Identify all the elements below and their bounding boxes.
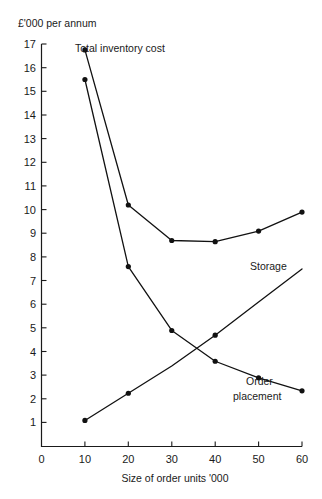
y-tick-label: 11 (25, 180, 36, 192)
y-tick-label: 6 (30, 298, 36, 310)
data-point (213, 239, 218, 244)
data-point (213, 333, 218, 338)
data-point (82, 418, 87, 423)
series-line (85, 50, 302, 242)
y-tick-label: 9 (30, 227, 36, 239)
data-point (213, 359, 218, 364)
data-series-layer (82, 47, 304, 423)
x-tick-label: 50 (252, 453, 264, 465)
data-point (126, 202, 131, 207)
y-tick-label: 16 (24, 62, 36, 74)
y-axis-ticks (42, 44, 47, 422)
x-axis-ticks (85, 442, 302, 447)
chart-plot-area: £'000 per annum 17 16 15 (0, 0, 322, 499)
y-tick-label: 17 (24, 38, 36, 50)
data-point (169, 238, 174, 243)
y-tick-label: 3 (30, 369, 36, 381)
y-tick-label: 4 (30, 346, 36, 358)
y-tick-label: 8 (30, 251, 36, 263)
storage-label: Storage (250, 260, 287, 272)
x-tick-label: 0 (38, 453, 44, 465)
y-tick-label: 1 (30, 416, 36, 428)
y-tick-label: 15 (24, 85, 36, 97)
y-tick-label: 2 (30, 393, 36, 405)
x-tick-label: 30 (166, 453, 178, 465)
order-placement-label-line1: Order (246, 375, 273, 387)
y-axis-tick-labels: 17 16 15 14 13 12 11 10 9 8 7 6 5 4 3 2 … (24, 38, 36, 428)
data-point (126, 264, 131, 269)
y-tick-label: 14 (24, 109, 36, 121)
data-point (299, 210, 304, 215)
x-tick-label: 10 (79, 453, 91, 465)
y-tick-label: 13 (24, 133, 36, 145)
inventory-cost-chart: £'000 per annum 17 16 15 (0, 0, 322, 499)
x-tick-label: 20 (122, 453, 134, 465)
x-axis-tick-labels: 0 10 20 30 40 50 60 (38, 453, 308, 465)
total-inventory-cost-label: Total inventory cost (75, 42, 165, 54)
y-tick-label: 12 (24, 156, 36, 168)
data-point (82, 77, 87, 82)
y-axis-title: £'000 per annum (18, 17, 97, 29)
x-tick-label: 40 (209, 453, 221, 465)
order-placement-label-line2: placement (233, 390, 282, 402)
data-point (299, 388, 304, 393)
x-tick-label: 60 (296, 453, 308, 465)
series-order-placement (82, 77, 304, 394)
data-point (256, 228, 261, 233)
x-axis-title: Size of order units '000 (121, 472, 228, 484)
y-tick-label: 5 (30, 322, 36, 334)
y-tick-label: 7 (30, 275, 36, 287)
series-line (85, 80, 302, 391)
y-tick-label: 10 (24, 204, 36, 216)
data-point (126, 391, 131, 396)
data-point (169, 328, 174, 333)
